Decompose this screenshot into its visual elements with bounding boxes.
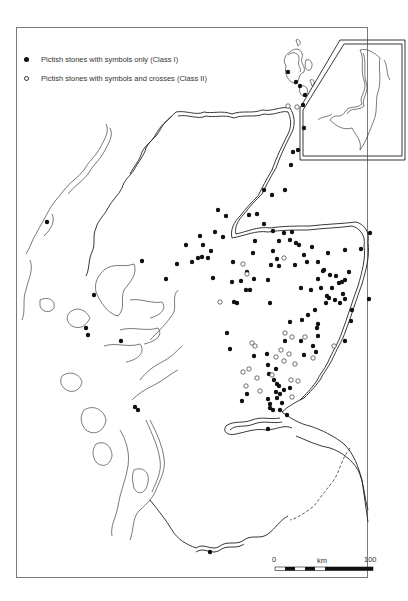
class-ii-site-marker — [290, 335, 294, 339]
class-i-site-marker — [277, 384, 281, 388]
class-i-site-marker — [349, 319, 353, 323]
open-circle-icon — [24, 76, 29, 81]
class-i-site-marker — [326, 251, 330, 255]
class-i-site-marker — [300, 318, 304, 322]
class-i-site-marker — [286, 70, 290, 74]
class-i-site-marker — [343, 248, 347, 252]
class-i-site-marker — [282, 231, 286, 235]
class-i-site-marker — [277, 264, 281, 268]
outer-hebrides — [22, 124, 111, 320]
class-ii-site-marker — [293, 362, 297, 366]
class-i-site-marker — [293, 263, 297, 267]
class-i-site-marker — [206, 256, 210, 260]
class-i-site-marker — [290, 230, 294, 234]
class-i-site-marker — [306, 313, 310, 317]
class-ii-site-marker — [303, 335, 307, 339]
class-i-site-marker — [285, 413, 289, 417]
class-i-site-marker — [359, 247, 363, 251]
class-i-site-marker — [283, 188, 287, 192]
class-i-site-marker — [228, 347, 232, 351]
class-i-site-marker — [270, 193, 274, 197]
class-i-site-marker — [316, 277, 320, 281]
class-i-site-marker — [314, 350, 318, 354]
scale-end-label: 100 — [364, 555, 377, 564]
class-i-site-marker — [324, 301, 328, 305]
class-ii-site-marker — [255, 376, 259, 380]
class-i-site-marker — [340, 280, 344, 284]
class-ii-site-marker — [247, 367, 251, 371]
class-i-site-marker — [280, 401, 284, 405]
class-i-site-marker — [302, 126, 306, 130]
class-i-site-marker — [266, 278, 270, 282]
class-ii-site-marker — [287, 352, 291, 356]
class-i-site-marker — [303, 93, 307, 97]
class-ii-site-marker — [241, 262, 245, 266]
class-i-site-marker — [302, 353, 306, 357]
class-i-site-marker — [298, 84, 302, 88]
class-ii-site-marker — [258, 389, 262, 393]
scale-unit-label: km — [317, 556, 327, 565]
class-ii-sites-layer — [218, 104, 336, 399]
class-i-site-marker — [266, 363, 270, 367]
class-i-site-marker — [321, 269, 325, 273]
class-i-site-marker — [325, 294, 329, 298]
shetland-inset — [300, 40, 405, 160]
class-i-site-marker — [230, 280, 234, 284]
class-i-site-marker — [305, 260, 309, 264]
class-i-site-marker — [253, 239, 257, 243]
class-i-site-marker — [299, 339, 303, 343]
class-i-site-marker — [309, 288, 313, 292]
class-i-site-marker — [297, 243, 301, 247]
class-i-site-marker — [224, 214, 228, 218]
class-i-site-marker — [350, 308, 354, 312]
class-i-site-marker — [341, 292, 345, 296]
class-i-site-marker — [343, 297, 347, 301]
class-i-site-marker — [338, 301, 342, 305]
class-i-site-marker — [119, 339, 123, 343]
class-i-site-marker — [316, 334, 320, 338]
class-i-site-marker — [255, 212, 259, 216]
class-i-site-marker — [278, 408, 282, 412]
class-i-site-marker — [343, 339, 347, 343]
class-i-site-marker — [310, 245, 314, 249]
class-ii-site-marker — [332, 344, 336, 348]
inner-hebrides — [40, 298, 112, 465]
class-i-site-marker — [311, 344, 315, 348]
class-i-site-marker — [275, 396, 279, 400]
class-i-site-marker — [283, 339, 287, 343]
class-i-site-marker — [333, 298, 337, 302]
class-i-site-marker — [164, 277, 168, 281]
legend-item-class-i: Pictish stones with symbols only (Class … — [24, 54, 207, 65]
legend-label-class-ii: Pictish stones with symbols and crosses … — [41, 74, 207, 83]
class-i-site-marker — [299, 286, 303, 290]
class-i-site-marker — [184, 243, 188, 247]
class-i-site-marker — [248, 288, 252, 292]
class-i-site-marker — [291, 150, 295, 154]
class-ii-site-marker — [286, 104, 290, 108]
class-i-site-marker — [315, 326, 319, 330]
class-i-site-marker — [252, 277, 256, 281]
class-i-site-marker — [275, 257, 279, 261]
class-i-site-marker — [196, 256, 200, 260]
class-i-site-marker — [274, 367, 278, 371]
class-ii-site-marker — [290, 395, 294, 399]
class-i-site-marker — [216, 208, 220, 212]
class-i-site-marker — [301, 103, 305, 107]
class-i-site-marker — [272, 378, 276, 382]
class-i-site-marker — [211, 276, 215, 280]
class-i-site-marker — [244, 288, 248, 292]
class-i-site-marker — [288, 320, 292, 324]
class-i-site-marker — [200, 255, 204, 259]
class-i-site-marker — [368, 231, 372, 235]
class-i-site-marker — [45, 220, 49, 224]
scale-bar — [275, 567, 373, 571]
class-i-site-marker — [328, 273, 332, 277]
class-i-site-marker — [190, 260, 194, 264]
class-i-site-marker — [316, 322, 320, 326]
class-i-site-marker — [136, 408, 140, 412]
class-i-site-marker — [262, 222, 266, 226]
class-i-site-marker — [92, 293, 96, 297]
class-i-site-marker — [313, 308, 317, 312]
class-i-site-marker — [274, 390, 278, 394]
class-ii-site-marker — [270, 373, 274, 377]
